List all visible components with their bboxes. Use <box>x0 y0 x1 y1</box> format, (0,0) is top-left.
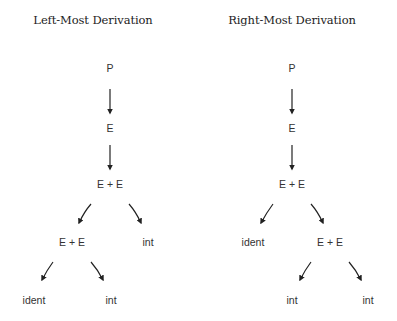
derivation-arrows <box>0 0 397 321</box>
arrow-curve-right-icon <box>349 262 361 280</box>
arrow-curve-right-icon <box>129 204 141 223</box>
arrow-curve-right-icon <box>311 204 323 223</box>
arrow-curve-left-icon <box>79 204 91 223</box>
arrow-curve-left-icon <box>42 262 53 280</box>
arrow-curve-right-icon <box>91 262 103 280</box>
arrow-curve-left-icon <box>261 204 273 223</box>
arrow-curve-left-icon <box>300 262 311 280</box>
